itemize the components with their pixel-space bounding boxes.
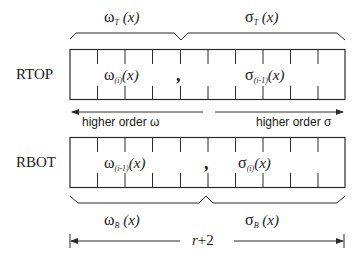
rtop-omega-content: ω(i)(x) [104, 67, 139, 85]
omega-top-label: ωT (x) [104, 9, 139, 27]
width-dimension-label: r+2 [192, 233, 214, 248]
top-brace-omega [70, 33, 181, 40]
bottom-brace-sigma [206, 196, 345, 203]
rbot-sigma-content: σ(i)(x) [238, 155, 271, 173]
register-diagram [0, 0, 361, 261]
bottom-brace-omega [70, 196, 206, 203]
rbot-separator: , [204, 154, 209, 172]
rbot-label: RBOT [16, 155, 56, 170]
sigma-bottom-label: σB (x) [245, 212, 279, 230]
higher-order-omega-label: higher order ω [82, 116, 159, 128]
omega-bottom-label: ωB (x) [104, 212, 140, 230]
top-brace-sigma [181, 33, 345, 40]
rtop-separator: , [176, 66, 181, 84]
higher-order-sigma-label: higher order σ [256, 116, 331, 128]
sigma-top-label: σT (x) [245, 9, 278, 27]
rbot-omega-content: ω(i-1)(x) [104, 155, 145, 173]
rtop-sigma-content: σ(i-1)(x) [245, 67, 285, 85]
rtop-label: RTOP [16, 67, 53, 82]
